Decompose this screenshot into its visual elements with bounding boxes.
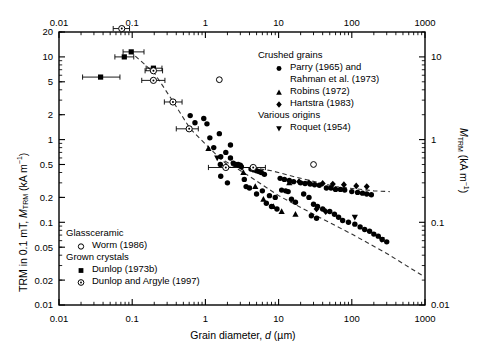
data-point (282, 177, 287, 182)
y-tick-label-left: 0.2 (40, 192, 53, 203)
y-tick-label-left: 0.1 (40, 217, 53, 228)
data-point (170, 99, 176, 105)
x-axis-title: Grain diameter, d (µm) (190, 330, 295, 341)
legend-item-label: Hartstra (1983) (290, 98, 354, 108)
legend-marker-filled-circle (272, 62, 286, 74)
data-point (362, 227, 367, 232)
data-point (293, 199, 298, 204)
data-point (291, 179, 296, 184)
data-point (364, 183, 370, 190)
legend-marker-open-circle-dot (74, 276, 88, 288)
data-point (217, 131, 222, 136)
y-tick-label-left: 1 (48, 134, 53, 145)
data-point (228, 155, 233, 160)
data-point (242, 177, 247, 182)
data-point (352, 215, 358, 221)
data-point (273, 195, 278, 200)
data-point (122, 54, 127, 59)
data-point (98, 74, 103, 79)
data-point (119, 25, 125, 31)
data-point (355, 190, 360, 195)
data-point (250, 164, 256, 170)
x-tick-label-top: 100 (344, 17, 360, 28)
y-axis-title-left: TRM in 0.1 mT, MTRM (kA m−1) (16, 153, 29, 292)
data-point (333, 187, 338, 192)
series-6 (113, 25, 265, 170)
data-point (225, 180, 230, 185)
legend-item-label: Dunlop and Argyle (1997) (92, 276, 200, 286)
data-point (205, 145, 211, 151)
x-tick-label-top: 0.1 (126, 17, 139, 28)
data-point (150, 68, 156, 74)
data-point (243, 184, 248, 189)
legend-item-label-cont: Rahman et al. (1973) (290, 74, 379, 84)
x-tick-label: 1000 (414, 313, 435, 324)
y-tick-label-left: 0.01 (35, 299, 54, 310)
y-tick-label-left: 2 (48, 109, 53, 120)
data-point (260, 196, 266, 202)
y-tick-label-left: 10 (42, 51, 53, 62)
data-point (352, 221, 357, 226)
data-point (384, 239, 389, 244)
figure-root: 0.010.010.10.111101010010010001000201052… (0, 0, 486, 355)
data-point (218, 162, 223, 167)
y-tick-label-right: 0.1 (431, 217, 444, 228)
x-tick-label: 0.1 (126, 313, 139, 324)
y-tick-label-left: 0.02 (35, 275, 54, 286)
chart-canvas: 0.010.010.10.111101010010010001000201052… (0, 0, 486, 355)
legend-item-label: Robins (1972) (290, 86, 350, 96)
data-point (357, 224, 362, 229)
legend-marker-filled-square (74, 264, 88, 276)
series-5 (83, 49, 162, 79)
data-point (192, 120, 197, 125)
data-point (204, 121, 209, 126)
legend-item[interactable]: Roquet (1954) (258, 122, 408, 134)
data-point (309, 213, 314, 218)
data-point (314, 216, 319, 221)
data-point (201, 116, 206, 121)
y-tick-label-left: 5 (48, 76, 53, 87)
data-point (364, 191, 369, 196)
legend-group-heading: Grown crystals (66, 252, 129, 262)
data-point (218, 174, 223, 179)
y-tick-label-left: 0.5 (40, 159, 53, 170)
y-tick-label-left: 20 (42, 26, 53, 37)
data-point (301, 191, 306, 196)
y-tick-label-right: 10 (431, 51, 442, 62)
data-point (252, 183, 258, 189)
data-point (292, 211, 298, 217)
trend-line-crushed-grain-trend (218, 157, 421, 275)
legend-marker-filled-triangle-up (272, 86, 286, 98)
data-point (150, 77, 156, 83)
data-point (324, 185, 329, 190)
data-point (267, 193, 272, 198)
legend-item-label: Roquet (1954) (290, 122, 351, 132)
legend-item-label: Dunlop (1973b) (92, 264, 158, 274)
data-point (369, 192, 374, 197)
legend-item[interactable]: Parry (1965) andRahman et al. (1973) (258, 62, 408, 86)
y-axis-title-right: MTRM (kA m−1) (457, 128, 470, 193)
legend-item-label: Worm (1986) (92, 240, 147, 250)
x-tick-label-top: 10 (273, 17, 284, 28)
data-point (188, 113, 193, 118)
data-point (129, 49, 134, 54)
data-point (254, 191, 259, 196)
data-point (285, 189, 290, 194)
legend-group-heading: Glassceramic (66, 228, 124, 238)
x-tick-label: 1 (203, 313, 208, 324)
data-point (342, 187, 347, 192)
data-point (312, 182, 317, 187)
legend-group-heading: Crushed grains (258, 50, 322, 60)
data-point (346, 220, 351, 225)
data-point (216, 77, 222, 83)
x-tick-label: 0.01 (50, 313, 69, 324)
legend-item[interactable]: Dunlop and Argyle (1997) (66, 276, 216, 288)
data-point (211, 145, 216, 150)
x-tick-label: 100 (344, 313, 360, 324)
data-point (186, 126, 192, 132)
x-tick-label-top: 1 (203, 17, 208, 28)
y-tick-label-left: 0.05 (35, 242, 54, 253)
legend-marker-filled-triangle-down (272, 122, 286, 134)
data-point (349, 189, 354, 194)
data-point (228, 142, 233, 147)
